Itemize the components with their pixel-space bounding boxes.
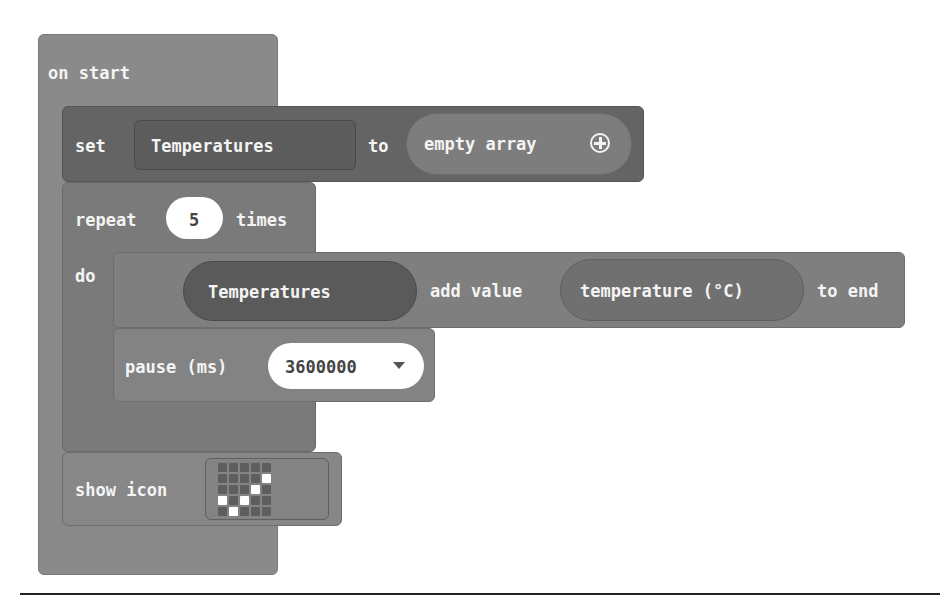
led-2-4 <box>262 485 271 494</box>
times-label: times <box>236 210 287 230</box>
on-start-label: on start <box>48 63 130 83</box>
to-label: to <box>368 136 388 156</box>
to-end-label: to end <box>817 281 878 301</box>
array-variable-name: Temperatures <box>208 282 331 302</box>
do-label: do <box>75 266 95 286</box>
repeat-keyword: repeat <box>75 210 136 230</box>
empty-array-label: empty array <box>424 134 537 154</box>
pause-duration-value: 3600000 <box>285 357 357 377</box>
blocks-workspace: on start set Temperatures to empty array… <box>0 0 940 598</box>
led-0-2 <box>240 463 249 472</box>
led-1-3 <box>251 474 260 483</box>
led-0-0 <box>218 463 227 472</box>
add-value-label: add value <box>430 281 522 301</box>
led-0-4 <box>262 463 271 472</box>
set-keyword: set <box>75 136 106 156</box>
led-2-0 <box>218 485 227 494</box>
temperature-label: temperature (°C) <box>580 281 744 301</box>
led-4-4 <box>262 507 271 516</box>
divider-line <box>20 593 940 595</box>
led-4-2 <box>240 507 249 516</box>
led-4-1 <box>229 507 238 516</box>
led-4-0 <box>218 507 227 516</box>
show-icon-label: show icon <box>75 480 167 500</box>
led-0-1 <box>229 463 238 472</box>
repeat-count-value: 5 <box>189 210 199 230</box>
led-3-4 <box>262 496 271 505</box>
led-matrix-icon[interactable] <box>218 463 271 516</box>
led-2-3 <box>251 485 260 494</box>
led-1-1 <box>229 474 238 483</box>
led-1-0 <box>218 474 227 483</box>
led-3-0 <box>218 496 227 505</box>
plus-circle-icon[interactable] <box>590 133 610 153</box>
led-2-2 <box>240 485 249 494</box>
led-2-1 <box>229 485 238 494</box>
led-3-2 <box>240 496 249 505</box>
led-3-1 <box>229 496 238 505</box>
led-0-3 <box>251 463 260 472</box>
pause-label: pause (ms) <box>125 357 227 377</box>
variable-name: Temperatures <box>151 136 274 156</box>
led-4-3 <box>251 507 260 516</box>
led-3-3 <box>251 496 260 505</box>
led-1-4 <box>262 474 271 483</box>
led-1-2 <box>240 474 249 483</box>
dropdown-arrow-icon[interactable] <box>393 362 405 369</box>
